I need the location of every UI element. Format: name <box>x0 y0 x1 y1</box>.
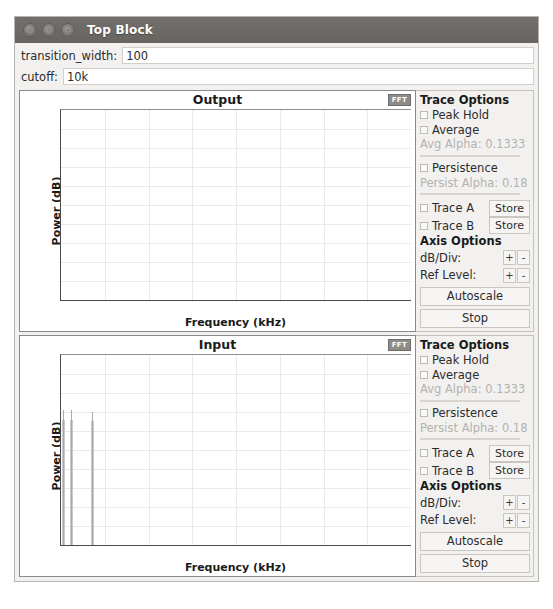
minimize-icon[interactable] <box>42 23 56 37</box>
y-axis-tick-mark <box>60 129 61 130</box>
gridline-vertical <box>280 110 281 300</box>
db-div-decrement-button[interactable]: - <box>517 495 530 510</box>
title-bar[interactable]: Top Block <box>15 17 538 43</box>
checkbox-icon[interactable] <box>420 164 428 172</box>
checkbox-icon[interactable] <box>420 111 428 119</box>
checkbox-average[interactable]: Average <box>420 123 530 138</box>
average-label: Average <box>432 123 479 137</box>
db-div-decrement-button[interactable]: - <box>517 250 530 265</box>
trace-a-label: Trace A <box>432 446 474 460</box>
autoscale-button[interactable]: Autoscale <box>420 532 530 551</box>
trace-b-store-button[interactable]: Store <box>489 217 530 234</box>
row-trace-a: Trace A Store <box>420 444 530 461</box>
checkbox-icon[interactable] <box>420 467 428 475</box>
parameter-section: transition_width: 100 cutoff: 10k <box>15 43 538 90</box>
row-db-div: dB/Div: + - <box>420 249 530 266</box>
ref-level-decrement-button[interactable]: - <box>517 268 530 283</box>
db-div-label: dB/Div: <box>420 251 461 265</box>
checkbox-average[interactable]: Average <box>420 368 530 383</box>
gridline-vertical <box>192 355 193 545</box>
x-axis-tick-mark <box>192 545 193 546</box>
db-div-steppers: + - <box>503 250 530 265</box>
y-axis-tick-mark <box>60 205 61 206</box>
checkbox-icon[interactable] <box>420 126 428 134</box>
checkbox-icon[interactable] <box>420 449 428 457</box>
plot-output[interactable]: Output FFT Power (dB) 0-10-20-30-40-50-6… <box>19 90 416 332</box>
ref-level-label: Ref Level: <box>420 513 476 527</box>
separator <box>420 193 520 195</box>
y-axis-tick-mark <box>60 110 61 111</box>
gridline-vertical <box>105 355 106 545</box>
plot-input[interactable]: Input FFT Power (dB) 0-10-20-30-40-50-60… <box>19 335 416 577</box>
cutoff-input[interactable]: 10k <box>63 68 534 85</box>
peak-hold-label: Peak Hold <box>432 108 489 122</box>
maximize-icon[interactable] <box>61 23 75 37</box>
trace-a-store-button[interactable]: Store <box>489 445 530 462</box>
x-axis-tick-mark <box>105 300 106 301</box>
tab-fft-output[interactable]: FFT <box>388 94 411 106</box>
row-db-div: dB/Div: + - <box>420 494 530 511</box>
gridline-vertical <box>367 355 368 545</box>
y-axis-tick-mark <box>60 450 61 451</box>
pane-output: Output FFT Power (dB) 0-10-20-30-40-50-6… <box>19 90 534 332</box>
y-axis-tick-mark <box>60 243 61 244</box>
gridline-horizontal <box>61 545 411 546</box>
spectrum-peak-skirt <box>64 420 65 545</box>
x-axis-tick-mark <box>236 300 237 301</box>
checkbox-icon[interactable] <box>420 409 428 417</box>
y-axis-tick-mark <box>60 412 61 413</box>
gridline-vertical <box>149 110 150 300</box>
spectrum-peak-skirt <box>72 420 73 545</box>
plot-grid-output: 0-10-20-30-40-50-60-70-80-90-10002468101… <box>60 109 411 301</box>
trace-options-header: Trace Options <box>420 93 530 107</box>
db-div-label: dB/Div: <box>420 496 461 510</box>
gridline-vertical <box>236 355 237 545</box>
ref-level-increment-button[interactable]: + <box>503 268 516 283</box>
y-axis-tick-mark <box>60 526 61 527</box>
close-icon[interactable] <box>23 23 37 37</box>
peak-hold-label: Peak Hold <box>432 353 489 367</box>
checkbox-icon[interactable] <box>420 204 428 212</box>
ref-level-increment-button[interactable]: + <box>503 513 516 528</box>
checkbox-persistence[interactable]: Persistence <box>420 161 530 176</box>
y-axis-tick-mark <box>60 300 61 301</box>
plot-title-input: Input <box>20 337 415 352</box>
checkbox-peak-hold[interactable]: Peak Hold <box>420 108 530 123</box>
x-axis-tick-mark <box>280 300 281 301</box>
pane-input: Input FFT Power (dB) 0-10-20-30-40-50-60… <box>19 335 534 577</box>
checkbox-icon[interactable] <box>420 222 428 230</box>
trace-options-input: Trace Options Peak Hold Average Avg Alph… <box>416 335 534 577</box>
stop-button[interactable]: Stop <box>420 554 530 573</box>
ref-level-decrement-button[interactable]: - <box>517 513 530 528</box>
db-div-steppers: + - <box>503 495 530 510</box>
tab-fft-input[interactable]: FFT <box>388 339 411 351</box>
db-div-increment-button[interactable]: + <box>503 250 516 265</box>
row-trace-b: Trace B Store <box>420 217 530 234</box>
transition-width-input[interactable]: 100 <box>122 47 534 64</box>
gridline-vertical <box>105 110 106 300</box>
y-axis-tick-mark <box>60 167 61 168</box>
stop-button[interactable]: Stop <box>420 309 530 328</box>
x-axis-tick-mark <box>149 545 150 546</box>
db-div-increment-button[interactable]: + <box>503 495 516 510</box>
transition-width-label: transition_width: <box>19 49 117 63</box>
checkbox-icon[interactable] <box>420 356 428 364</box>
window-buttons <box>23 23 75 37</box>
spectrum-peak-skirt <box>70 420 71 545</box>
application-window: Top Block transition_width: 100 cutoff: … <box>14 16 539 582</box>
y-axis-tick-mark <box>60 431 61 432</box>
row-trace-b: Trace B Store <box>420 462 530 479</box>
checkbox-icon[interactable] <box>420 371 428 379</box>
average-label: Average <box>432 368 479 382</box>
trace-b-label: Trace B <box>432 464 474 478</box>
x-axis-tick-mark <box>280 545 281 546</box>
window-title: Top Block <box>87 23 153 37</box>
gridline-vertical <box>280 355 281 545</box>
trace-b-store-button[interactable]: Store <box>489 462 530 479</box>
trace-a-store-button[interactable]: Store <box>489 200 530 217</box>
checkbox-peak-hold[interactable]: Peak Hold <box>420 353 530 368</box>
y-axis-tick-mark <box>60 186 61 187</box>
separator <box>420 155 520 157</box>
checkbox-persistence[interactable]: Persistence <box>420 406 530 421</box>
autoscale-button[interactable]: Autoscale <box>420 287 530 306</box>
